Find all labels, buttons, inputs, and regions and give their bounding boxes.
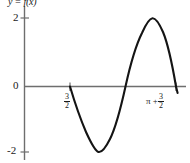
x-tick-label-right: π + 3 2 [146, 93, 164, 111]
fraction-denominator-right: 2 [158, 102, 164, 110]
y-tick-label-neg2: -2 [7, 145, 16, 156]
function-graph-figure: y = f(x) 2 0 -2 3 2 π + 3 2 [0, 0, 190, 163]
fraction-three-halves-right: 3 2 [158, 93, 164, 111]
plot-canvas [0, 0, 190, 163]
y-tick-label-0: 0 [13, 80, 19, 91]
function-label: y = f(x) [8, 0, 36, 7]
function-curve [70, 18, 176, 152]
x-tick-label-left: 3 2 [64, 93, 70, 111]
curve-right-endpoint-stub [176, 87, 178, 94]
fraction-three-halves: 3 2 [64, 93, 70, 111]
fraction-denominator: 2 [64, 102, 70, 110]
y-tick-label-2: 2 [13, 12, 19, 23]
pi-plus-prefix: π + [146, 96, 158, 106]
